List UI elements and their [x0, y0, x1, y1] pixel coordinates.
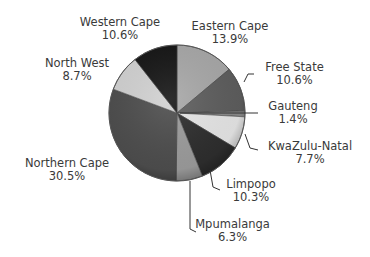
label-value: 1.4% — [258, 113, 328, 126]
label-kwazulu-natal: KwaZulu-Natal 7.7% — [255, 140, 365, 166]
label-value: 7.7% — [255, 153, 365, 166]
label-value: 30.5% — [12, 170, 122, 183]
label-north-west: North West 8.7% — [32, 57, 122, 83]
label-value: 6.3% — [190, 231, 275, 244]
label-free-state: Free State 10.6% — [252, 61, 337, 87]
label-value: 8.7% — [32, 70, 122, 83]
label-northern-cape: Northern Cape 30.5% — [12, 157, 122, 183]
label-value: 10.6% — [252, 74, 337, 87]
label-limpopo: Limpopo 10.3% — [216, 178, 286, 204]
label-value: 13.9% — [180, 33, 280, 46]
label-value: 10.6% — [70, 29, 170, 42]
label-mpumalanga: Mpumalanga 6.3% — [190, 218, 275, 244]
label-gauteng: Gauteng 1.4% — [258, 100, 328, 126]
label-western-cape: Western Cape 10.6% — [70, 16, 170, 42]
label-eastern-cape: Eastern Cape 13.9% — [180, 20, 280, 46]
label-value: 10.3% — [216, 191, 286, 204]
